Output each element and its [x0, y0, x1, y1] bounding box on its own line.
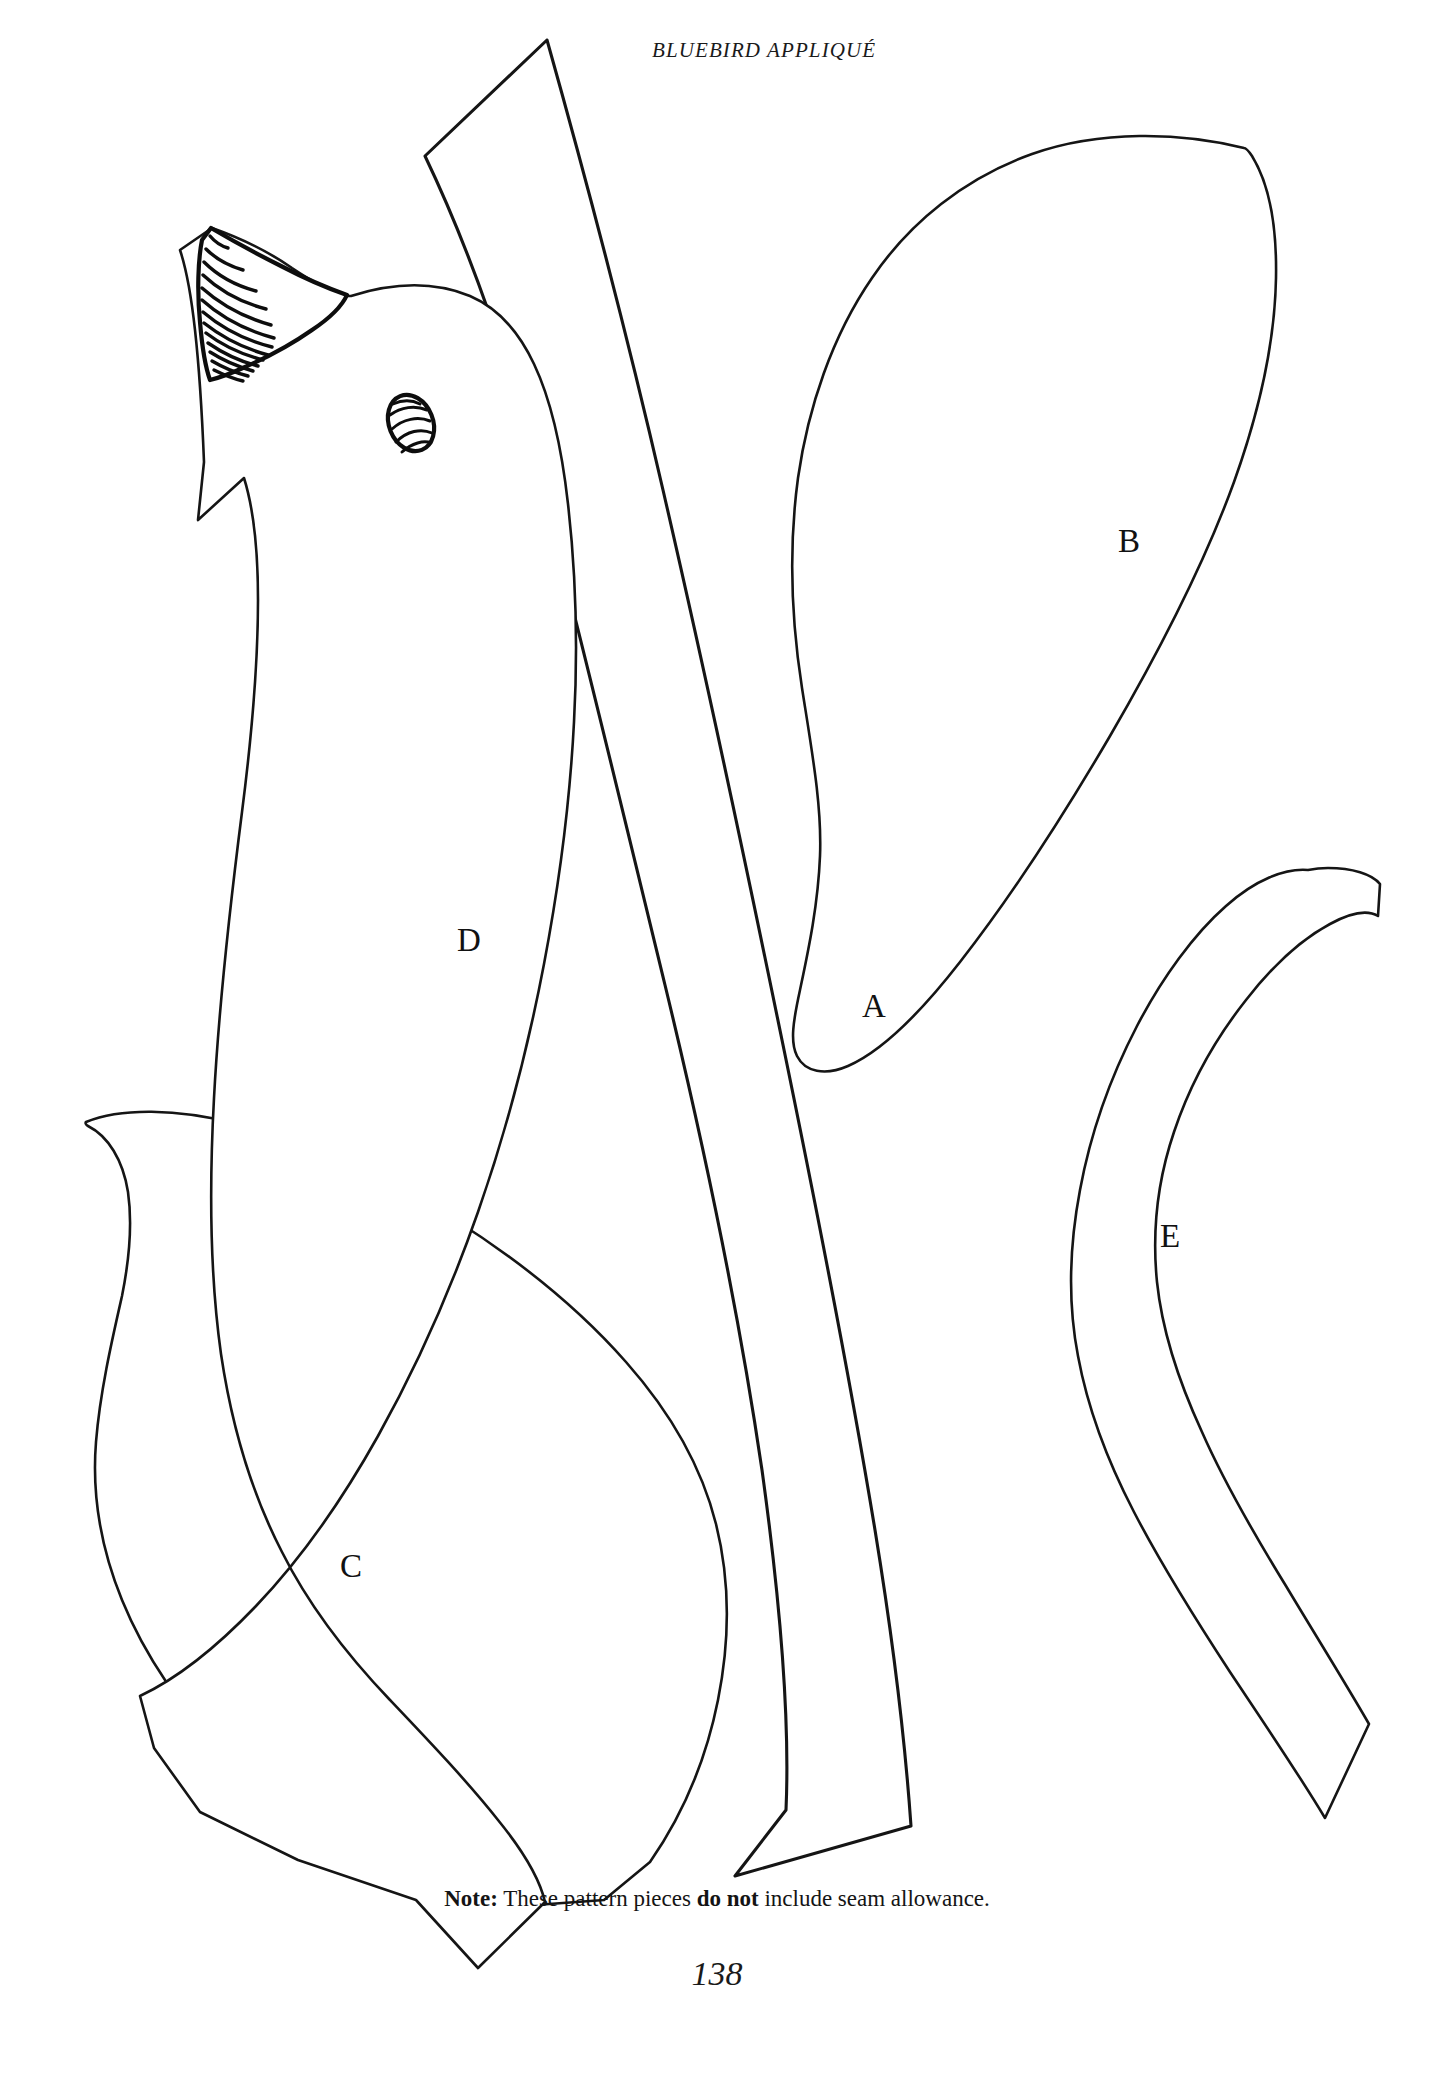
piece-e-outline[interactable] [1071, 868, 1380, 1818]
piece-label-a: A [862, 990, 886, 1023]
piece-label-d: D [457, 924, 481, 957]
page-number: 138 [0, 1955, 1434, 1993]
note-text-part-1: These pattern pieces [498, 1886, 697, 1911]
seam-allowance-note: Note: These pattern pieces do not includ… [0, 1886, 1434, 1912]
piece-label-b: B [1118, 525, 1141, 558]
pattern-pieces-drawing [0, 0, 1434, 2074]
page-title: BLUEBIRD APPLIQUÉ [652, 38, 876, 63]
pattern-page: BLUEBIRD APPLIQUÉ A B C D E Note: These … [0, 0, 1434, 2074]
note-prefix: Note: [444, 1886, 498, 1911]
piece-label-c: C [340, 1550, 363, 1583]
piece-label-e: E [1160, 1220, 1181, 1253]
note-text-part-2: include seam allowance. [759, 1886, 990, 1911]
note-emphasis: do not [697, 1886, 759, 1911]
